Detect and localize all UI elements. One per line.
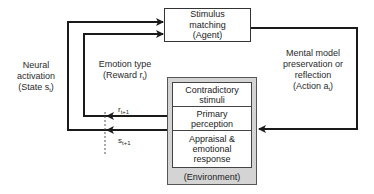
environment-caption: (Environment)	[168, 172, 256, 182]
next-state-label: st+1	[118, 135, 131, 149]
agent-line3: (Agent)	[189, 30, 226, 41]
label-text: (State st)	[8, 82, 64, 96]
label-text: preservation or	[272, 59, 354, 70]
stage-text: stimuli	[185, 95, 239, 105]
label-text: Neural	[8, 60, 64, 71]
state-label: Neural activation (State st)	[8, 60, 64, 96]
agent-line2: matching	[189, 20, 226, 31]
environment-stages: Contradictory stimuli Primary perception…	[172, 82, 252, 168]
label-text: (Action at)	[272, 81, 354, 95]
stage-text: Appraisal &	[189, 134, 235, 144]
label-text: Mental model	[272, 48, 354, 59]
stage-text: Primary	[191, 109, 233, 119]
agent-line1: Stimulus	[189, 9, 226, 20]
next-reward-label: rt+1	[118, 104, 129, 118]
stage-appraisal-response: Appraisal & emotional response	[173, 131, 251, 167]
environment-box: Contradictory stimuli Primary perception…	[167, 77, 257, 185]
stage-primary-perception: Primary perception	[173, 107, 251, 131]
stage-text: response	[189, 154, 235, 164]
stage-text: Contradictory	[185, 85, 239, 95]
stage-text: emotional	[189, 144, 235, 154]
reward-label: Emotion type (Reward rt)	[88, 59, 162, 84]
stage-text: perception	[191, 119, 233, 129]
label-text: activation	[8, 71, 64, 82]
label-text: reflection	[272, 70, 354, 81]
label-text: (Reward rt)	[88, 70, 162, 84]
agent-box: Stimulus matching (Agent)	[164, 8, 251, 42]
label-text: Emotion type	[88, 59, 162, 70]
stage-contradictory-stimuli: Contradictory stimuli	[173, 83, 251, 107]
action-label: Mental model preservation or reflection …	[272, 48, 354, 95]
